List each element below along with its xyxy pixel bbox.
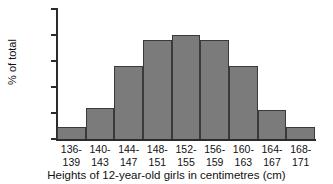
x-tick-label-upper: 163 bbox=[229, 156, 258, 169]
x-tick-label: 164-167 bbox=[258, 143, 287, 169]
x-tick-label: 140-143 bbox=[86, 143, 115, 169]
bar-slot bbox=[172, 9, 201, 139]
x-tick-label-lower: 136- bbox=[61, 143, 82, 155]
plot-area: 0510152025 bbox=[57, 9, 315, 139]
x-tick-label-lower: 140- bbox=[90, 143, 111, 155]
x-tick-label-upper: 143 bbox=[86, 156, 115, 169]
histogram-bar bbox=[114, 66, 143, 139]
histogram-bar bbox=[57, 127, 86, 139]
bar-slot bbox=[286, 9, 315, 139]
bar-slot bbox=[114, 9, 143, 139]
x-tick-label-lower: 168- bbox=[290, 143, 311, 155]
histogram-bar bbox=[172, 35, 201, 139]
x-tick-label-upper: 147 bbox=[114, 156, 143, 169]
x-tick-label: 160-163 bbox=[229, 143, 258, 169]
y-axis-label: % of total bbox=[6, 26, 18, 98]
bar-slot bbox=[86, 9, 115, 139]
histogram-bar bbox=[229, 66, 258, 139]
x-tick-label-lower: 144- bbox=[118, 143, 139, 155]
x-tick-label-upper: 155 bbox=[172, 156, 201, 169]
x-tick-label: 156-159 bbox=[200, 143, 229, 169]
x-tick-label-lower: 156- bbox=[204, 143, 225, 155]
x-tick-label-lower: 160- bbox=[233, 143, 254, 155]
x-tick-label-upper: 159 bbox=[200, 156, 229, 169]
x-tick-label: 136-139 bbox=[57, 143, 86, 169]
bar-slot bbox=[258, 9, 287, 139]
bar-slot bbox=[229, 9, 258, 139]
x-axis-line bbox=[56, 139, 316, 141]
x-tick-label-lower: 148- bbox=[147, 143, 168, 155]
bar-series bbox=[57, 9, 315, 139]
x-tick-label-upper: 151 bbox=[143, 156, 172, 169]
x-tick-label-upper: 171 bbox=[286, 156, 315, 169]
bar-slot bbox=[143, 9, 172, 139]
histogram-bar bbox=[143, 40, 172, 139]
x-axis-tick-labels: 136-139140-143144-147148-151152-155156-1… bbox=[57, 143, 315, 169]
x-tick-label: 168-171 bbox=[286, 143, 315, 169]
x-tick-label-lower: 164- bbox=[262, 143, 283, 155]
histogram-bar bbox=[286, 127, 315, 139]
histogram-bar bbox=[258, 110, 287, 139]
x-tick-label: 152-155 bbox=[172, 143, 201, 169]
bar-slot bbox=[200, 9, 229, 139]
x-axis-caption: Heights of 12-year-old girls in centimet… bbox=[0, 169, 333, 181]
histogram-bar bbox=[86, 108, 115, 139]
bar-slot bbox=[57, 9, 86, 139]
x-tick-label: 148-151 bbox=[143, 143, 172, 169]
x-tick-label: 144-147 bbox=[114, 143, 143, 169]
x-tick-label-upper: 139 bbox=[57, 156, 86, 169]
histogram-chart: % of total 0510152025 136-139140-143144-… bbox=[0, 0, 333, 184]
x-tick-label-lower: 152- bbox=[176, 143, 197, 155]
histogram-bar bbox=[200, 40, 229, 139]
x-tick-label-upper: 167 bbox=[258, 156, 287, 169]
